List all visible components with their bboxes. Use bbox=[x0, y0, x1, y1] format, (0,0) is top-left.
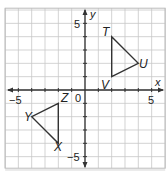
vertex-label-v: V bbox=[101, 78, 110, 92]
origin-label: 0 bbox=[75, 92, 81, 104]
x-tick-neg5: −5 bbox=[9, 94, 22, 106]
x-tick-pos5: 5 bbox=[148, 94, 154, 106]
x-axis-label: x bbox=[154, 76, 161, 88]
y-tick-pos5: 5 bbox=[74, 18, 80, 30]
vertex-label-y: Y bbox=[24, 110, 33, 124]
y-axis-down-arrow-icon bbox=[83, 162, 88, 168]
y-tick-neg5: −5 bbox=[67, 151, 80, 163]
coordinate-plane: x y 0 −5 5 5 −5 T U V Z Y X bbox=[0, 0, 168, 180]
x-axis-left-arrow-icon bbox=[7, 88, 13, 93]
vertex-label-u: U bbox=[139, 57, 148, 71]
x-axis-right-arrow-icon bbox=[158, 88, 164, 93]
vertex-label-x: X bbox=[53, 140, 63, 154]
vertex-label-z: Z bbox=[60, 91, 69, 105]
